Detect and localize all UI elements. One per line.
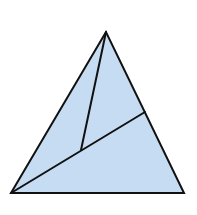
main-triangle (11, 32, 184, 193)
triangle-diagram (0, 0, 197, 215)
